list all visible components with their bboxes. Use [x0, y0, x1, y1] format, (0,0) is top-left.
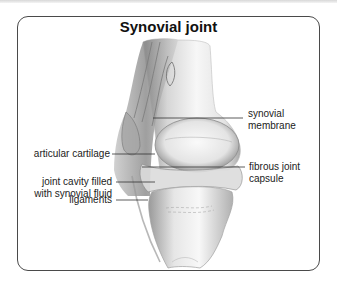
label-synovial-membrane: synovial membrane — [248, 108, 296, 131]
label-line: joint cavity filled — [34, 176, 112, 188]
knee-joint-illustration — [0, 0, 337, 286]
label-ligaments: ligaments — [69, 194, 112, 206]
label-line: fibrous joint — [249, 161, 300, 173]
femoral-condyle — [155, 118, 239, 172]
label-line: membrane — [248, 120, 296, 132]
tibia-shape — [149, 187, 233, 268]
label-fibrous-joint-capsule: fibrous joint capsule — [249, 161, 300, 184]
label-articular-cartilage: articular cartilage — [34, 148, 110, 160]
label-line: capsule — [249, 173, 300, 185]
label-line: synovial — [248, 108, 296, 120]
